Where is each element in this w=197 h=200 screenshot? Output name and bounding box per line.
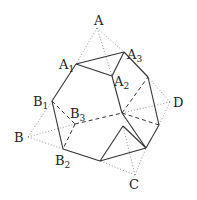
dotted-edge — [159, 102, 170, 125]
label-A1: A1 — [58, 57, 74, 74]
visible-edge — [123, 126, 146, 148]
dotted-edge — [28, 137, 63, 149]
label-B: B — [14, 130, 24, 145]
label-A2: A2 — [113, 74, 129, 91]
hidden-edge — [63, 124, 75, 149]
label-B3: B3 — [70, 106, 86, 123]
visible-edge — [76, 52, 124, 64]
visible-edge — [76, 64, 112, 76]
label-B1: B1 — [33, 94, 48, 111]
label-B2: B2 — [55, 153, 70, 170]
label-C: C — [129, 177, 139, 192]
dotted-edge — [28, 124, 75, 137]
visible-edge — [112, 52, 124, 76]
dotted-edge — [100, 161, 135, 175]
vertex-labels: AA1A2A3BB1B2B3CD — [14, 13, 183, 192]
visible-edge — [146, 125, 159, 148]
label-A3: A3 — [126, 47, 142, 64]
visible-edge — [122, 113, 146, 148]
hidden-edges — [52, 77, 159, 149]
dotted-edge — [97, 28, 112, 76]
dotted-edge — [122, 102, 170, 113]
dotted-edge — [135, 148, 146, 175]
label-A: A — [93, 13, 104, 28]
tetrahedron-dotted-edges — [28, 28, 170, 175]
label-D: D — [173, 95, 183, 110]
visible-edge — [148, 77, 159, 125]
visible-edge — [52, 101, 63, 149]
dotted-edge — [123, 126, 135, 175]
polyhedron-diagram: AA1A2A3BB1B2B3CD — [0, 0, 197, 200]
dotted-edge — [76, 28, 97, 64]
hidden-edge — [122, 113, 159, 125]
